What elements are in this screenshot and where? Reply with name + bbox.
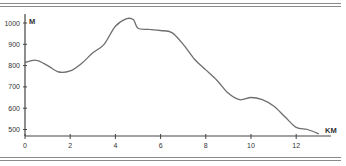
elevation-line bbox=[25, 18, 319, 134]
x-tick-label: 2 bbox=[68, 142, 72, 149]
x-tick-label: 12 bbox=[292, 142, 300, 149]
x-tick-label: 4 bbox=[113, 142, 117, 149]
y-tick-label: 800 bbox=[8, 62, 20, 69]
y-tick-label: 600 bbox=[8, 105, 20, 112]
y-tick-label: 500 bbox=[8, 126, 20, 133]
y-tick-label: 700 bbox=[8, 83, 20, 90]
y-ticks: 5006007008009001000 bbox=[4, 20, 27, 134]
elevation-chart: 5006007008009001000 024681012 M KM bbox=[0, 0, 346, 166]
x-unit-label: KM bbox=[325, 126, 337, 135]
bottom-rule-2 bbox=[0, 160, 341, 161]
y-tick-label: 900 bbox=[8, 41, 20, 48]
x-tick-label: 0 bbox=[23, 142, 27, 149]
x-tick-label: 8 bbox=[204, 142, 208, 149]
bottom-rule-1 bbox=[0, 157, 341, 158]
x-tick-label: 6 bbox=[159, 142, 163, 149]
y-tick-label: 1000 bbox=[4, 20, 20, 27]
y-unit-label: M bbox=[29, 17, 35, 26]
x-tick-label: 10 bbox=[247, 142, 255, 149]
